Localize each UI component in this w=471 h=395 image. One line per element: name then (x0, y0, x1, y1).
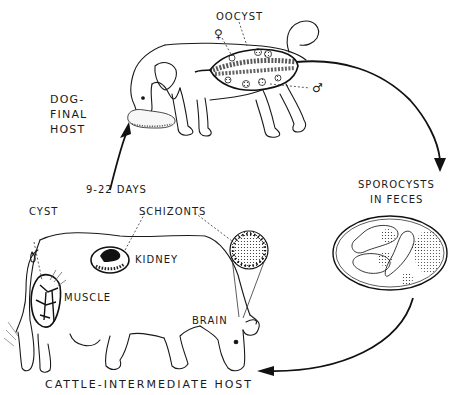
intermediate-host-label: CATTLE-INTERMEDIATE HOST (45, 377, 253, 392)
arrow-feces-to-cattle (270, 298, 413, 371)
muscle-label: MUSCLE (64, 293, 111, 303)
brain-label: BRAIN (192, 316, 228, 326)
interval-label: 9-22 DAYS (86, 185, 147, 195)
sporocysts-label-line-1: SPOROCYSTS (358, 180, 435, 190)
schizonts-label: SCHIZONTS (139, 207, 206, 217)
life-cycle-diagram: OOCYST ♀ ♂ DOG- FINAL HOST 9-22 DAYS SPO… (0, 0, 471, 395)
cyst-label: CYST (29, 207, 58, 217)
arrow-dog-to-feces (296, 61, 440, 160)
kidney-illustration (91, 247, 129, 273)
intestine-section (210, 49, 298, 91)
muscle-cyst-illustration (31, 270, 66, 327)
female-symbol-icon: ♀ (214, 28, 223, 40)
final-host-line-2: FINAL (50, 107, 87, 122)
final-host-label: DOG- FINAL HOST (50, 92, 87, 137)
sporocysts-label-line-2: IN FECES (370, 195, 423, 205)
final-host-line-1: DOG- (50, 92, 87, 107)
oocyst-label: OOCYST (216, 12, 263, 22)
arrow-cattle-to-dog (110, 134, 126, 190)
kidney-label: KIDNEY (135, 255, 178, 265)
sporocyst-illustration (333, 216, 447, 290)
male-symbol-icon: ♂ (312, 82, 323, 94)
final-host-line-3: HOST (50, 122, 87, 137)
schizont-magnified-illustration (230, 231, 268, 318)
